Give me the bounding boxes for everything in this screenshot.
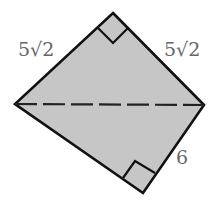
dashed-diagonal [15,104,204,105]
kite-diagram: 5√2 5√2 6 [0,0,223,206]
side-label-top-left: 5√2 [18,38,54,60]
side-label-bottom-right: 6 [176,146,188,168]
side-label-top-right: 5√2 [164,38,200,60]
